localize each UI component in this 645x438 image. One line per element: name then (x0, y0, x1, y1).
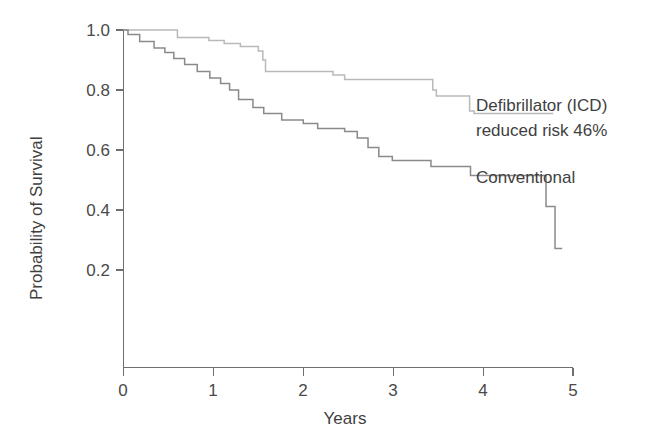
defibrillator-annotation-line1: Defibrillator (ICD) (476, 96, 607, 115)
kaplan-meier-chart: Probability of Survival Years 1.0 0.8 0.… (0, 0, 645, 438)
defibrillator-annotation-line2: reduced risk 46% (476, 121, 607, 140)
conventional-annotation: Conventional (476, 168, 575, 187)
y-tick-label-0.4: 0.4 (86, 201, 110, 220)
y-axis-title: Probability of Survival (27, 137, 46, 300)
x-axis-title: Years (324, 409, 367, 428)
x-tick-label-1: 1 (208, 381, 217, 400)
y-tick-label-0.6: 0.6 (86, 141, 110, 160)
x-tick-label-2: 2 (298, 381, 307, 400)
x-tick-label-4: 4 (478, 381, 487, 400)
y-tick-label-0.8: 0.8 (86, 81, 110, 100)
x-tick-label-5: 5 (568, 381, 577, 400)
x-axis-ticks (124, 368, 574, 376)
y-tick-label-1.0: 1.0 (86, 21, 110, 40)
x-tick-label-3: 3 (388, 381, 397, 400)
survival-curve-figure: Probability of Survival Years 1.0 0.8 0.… (0, 0, 645, 438)
x-tick-label-0: 0 (118, 381, 127, 400)
y-tick-label-0.2: 0.2 (86, 261, 110, 280)
